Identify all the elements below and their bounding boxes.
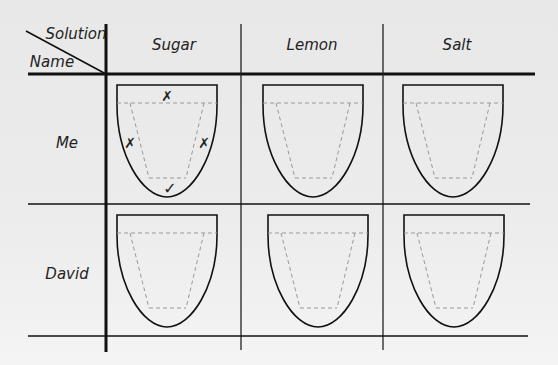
- row-header-david: David: [45, 265, 88, 283]
- column-header-lemon: Lemon: [287, 36, 338, 54]
- tongue-david-salt: [404, 215, 504, 327]
- check-mark-icon-back: ✓: [163, 179, 176, 198]
- row-header-me: Me: [56, 134, 78, 152]
- corner-name-label: Name: [30, 53, 74, 71]
- cross-mark-icon-tip: ✗: [161, 88, 173, 104]
- table-grid: [0, 0, 558, 365]
- column-header-salt: Salt: [443, 36, 472, 54]
- tongue-me-lemon: [263, 85, 363, 197]
- tongue-david-sugar: [117, 215, 217, 327]
- cross-mark-icon-left: ✗: [124, 135, 136, 151]
- column-header-sugar: Sugar: [152, 36, 196, 54]
- tongue-me-salt: [403, 85, 503, 197]
- tongue-david-lemon: [268, 215, 368, 327]
- corner-solution-label: Solution: [45, 25, 106, 43]
- cross-mark-icon-right: ✗: [198, 135, 210, 151]
